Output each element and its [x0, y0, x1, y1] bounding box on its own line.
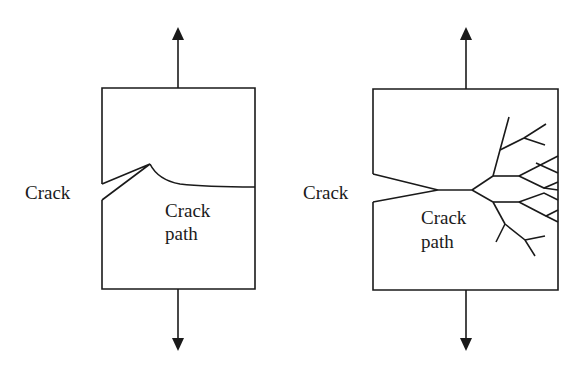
crack-propagation-figure: Crack Crack path Crack Crack path	[0, 0, 579, 371]
right-crack-branches	[472, 117, 558, 256]
figure-canvas	[0, 0, 579, 371]
right-bottom-arrowhead-icon	[460, 338, 472, 351]
left-crack-path-line	[150, 164, 255, 187]
left-crack-path-label-line1: Crack	[165, 199, 210, 222]
right-top-arrowhead-icon	[460, 27, 472, 40]
left-top-arrowhead-icon	[172, 27, 184, 40]
left-panel	[102, 38, 255, 340]
right-panel	[373, 38, 558, 340]
right-crack-wedge	[373, 174, 438, 202]
left-crack-path-label-line2: path	[165, 222, 198, 245]
left-crack-wedge	[102, 164, 150, 200]
left-bottom-arrowhead-icon	[172, 338, 184, 351]
left-specimen-outline	[102, 88, 255, 289]
right-crack-path-label-line1: Crack	[421, 206, 466, 229]
right-crack-label: Crack	[303, 181, 348, 204]
left-crack-label: Crack	[25, 181, 70, 204]
right-crack-path-label-line2: path	[421, 230, 454, 253]
